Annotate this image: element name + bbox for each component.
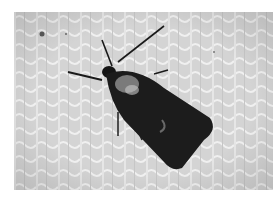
moth-scene [14, 12, 273, 190]
moth-photo [14, 12, 273, 190]
